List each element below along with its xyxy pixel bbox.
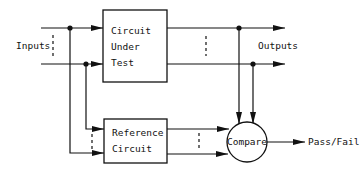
inputs-label: Inputs bbox=[16, 40, 50, 51]
reference-circuit-block: Reference Circuit bbox=[104, 119, 167, 163]
outputs-label: Outputs bbox=[258, 40, 298, 51]
circuit-under-test-block: Circuit Under Test bbox=[103, 10, 167, 82]
cut-label-3: Test bbox=[111, 57, 134, 68]
cut-label-1: Circuit bbox=[111, 25, 151, 36]
compare-label: Compare bbox=[227, 136, 267, 147]
input-branch-1 bbox=[70, 28, 104, 153]
cut-label-2: Under bbox=[111, 41, 140, 52]
pass-fail-label: Pass/Fail bbox=[308, 136, 359, 147]
compare-block: Compare bbox=[227, 122, 267, 162]
reference-label-1: Reference bbox=[112, 127, 164, 138]
input-branch-n bbox=[86, 64, 104, 129]
reference-label-2: Circuit bbox=[112, 143, 152, 154]
comparison-test-diagram: Inputs Circuit Under Test Outputs Refere… bbox=[0, 0, 364, 174]
